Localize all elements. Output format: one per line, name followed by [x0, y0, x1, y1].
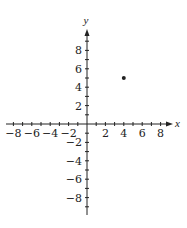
x-tick-label: −6	[24, 127, 40, 140]
y-tick-label: 8	[75, 44, 82, 57]
x-axis-label: x	[174, 117, 180, 129]
data-point	[122, 76, 126, 80]
y-tick-label: −8	[66, 192, 82, 205]
x-tick-label: 8	[157, 127, 164, 140]
y-tick-label: 4	[75, 81, 82, 94]
y-tick-label: −4	[66, 155, 82, 168]
y-tick-label: 6	[75, 63, 82, 76]
x-tick-label: −4	[42, 127, 58, 140]
y-tick-label: 2	[75, 100, 82, 113]
x-axis-arrow-icon	[166, 122, 173, 127]
coordinate-plane: −8−6−4−22468−8−6−4−22468xy	[0, 0, 187, 228]
y-axis-label: y	[83, 14, 89, 26]
x-tick-label: −8	[5, 127, 21, 140]
y-tick-label: −2	[66, 136, 82, 149]
x-tick-label: 6	[139, 127, 146, 140]
x-tick-label: 4	[120, 127, 127, 140]
x-tick-label: 2	[102, 127, 109, 140]
y-axis-arrow-icon	[85, 29, 90, 36]
y-tick-label: −6	[66, 173, 82, 186]
